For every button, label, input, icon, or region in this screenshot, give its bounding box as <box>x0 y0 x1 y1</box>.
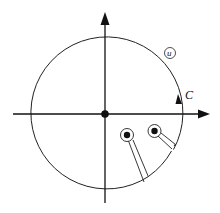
contour-label: C <box>185 88 194 102</box>
singularity-point-1 <box>124 132 130 138</box>
singularity-point-2 <box>151 128 157 134</box>
region-label: u <box>167 48 172 58</box>
contour-diagram: C u <box>0 0 220 213</box>
origin-point <box>101 110 109 118</box>
imaginary-axis-arrow-icon <box>101 12 110 25</box>
contour-circle-segment-2 <box>149 151 172 176</box>
real-axis-arrow-icon <box>198 110 210 119</box>
keyhole-1 <box>121 129 149 183</box>
keyhole-2 <box>148 125 176 150</box>
